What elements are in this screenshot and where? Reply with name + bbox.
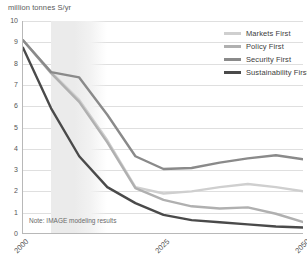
chart-note: Note: IMAGE modeling results xyxy=(29,217,116,224)
y-tick-label: 8 xyxy=(0,60,18,67)
chart-root: million tonnes S/yr 109876543210 Note: I… xyxy=(0,0,307,263)
legend-swatch-icon xyxy=(224,32,241,35)
legend-item-label: Security First xyxy=(246,55,291,64)
legend-item-label: Sustainability First xyxy=(246,68,307,77)
y-tick-label: 10 xyxy=(0,17,18,24)
legend-item[interactable]: Sustainability First xyxy=(224,66,307,79)
x-tick-label: 2050 xyxy=(291,237,307,258)
y-tick-label: 2 xyxy=(0,187,18,194)
legend-item[interactable]: Markets First xyxy=(224,27,307,40)
legend-swatch-icon xyxy=(224,58,241,61)
y-tick-label: 9 xyxy=(0,38,18,45)
legend-item-label: Policy First xyxy=(246,42,284,51)
legend-swatch-icon xyxy=(224,71,241,74)
y-tick-label: 6 xyxy=(0,102,18,109)
legend-item-label: Markets First xyxy=(246,29,291,38)
y-axis-title: million tonnes S/yr xyxy=(8,3,71,12)
y-tick-label: 0 xyxy=(0,230,18,237)
y-tick-label: 5 xyxy=(0,124,18,131)
x-tick-label: 2000 xyxy=(10,237,31,258)
y-tick-label: 1 xyxy=(0,209,18,216)
y-tick-label: 7 xyxy=(0,81,18,88)
chart-legend: Markets FirstPolicy FirstSecurity FirstS… xyxy=(224,27,307,79)
y-tick-label: 3 xyxy=(0,166,18,173)
legend-item[interactable]: Policy First xyxy=(224,40,307,53)
x-tick-label: 2025 xyxy=(150,237,171,258)
legend-item[interactable]: Security First xyxy=(224,53,307,66)
legend-swatch-icon xyxy=(224,45,241,48)
y-tick-label: 4 xyxy=(0,145,18,152)
